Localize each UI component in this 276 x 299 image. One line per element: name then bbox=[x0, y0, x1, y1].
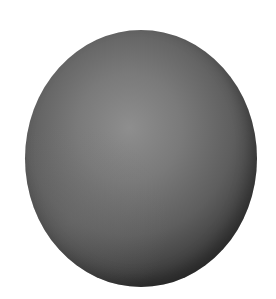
shaded-sphere bbox=[25, 30, 257, 287]
